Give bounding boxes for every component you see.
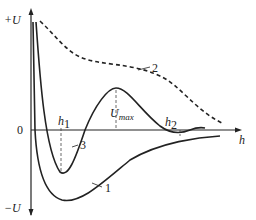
x-axis-arrow-icon [235, 128, 242, 133]
x-axis-label: h [239, 133, 245, 147]
curve-1-label: 1 [105, 181, 111, 195]
y-axis-bottom-label: −U [4, 201, 22, 215]
h1-label: h1 [58, 114, 70, 131]
y-axis-top-label: +U [4, 13, 22, 27]
curve-2-label: 2 [152, 61, 158, 75]
curve-2 [40, 21, 222, 123]
origin-label: 0 [17, 123, 23, 137]
curve-3-leader [72, 145, 78, 147]
curve-3-label: 3 [80, 138, 86, 152]
potential-energy-diagram: +U −U 0 h h1 Umax h2 1 2 3 [0, 0, 256, 220]
umax-label: Umax [110, 106, 134, 122]
y-axis-arrow-down-icon [29, 209, 34, 216]
y-axis-arrow-up-icon [29, 8, 34, 15]
